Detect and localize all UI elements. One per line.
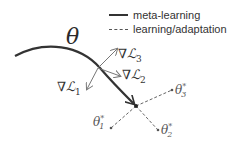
loss-symbol: ℒ <box>131 67 140 82</box>
gradient-label-1: ∇ℒ1 <box>57 79 81 97</box>
optimum-label-1: θ*1 <box>93 114 104 131</box>
theta-label: θ <box>66 24 79 49</box>
gradient-label-2: ∇ℒ2 <box>122 67 146 85</box>
legend-item-adaptation: learning/adaptation <box>109 22 227 36</box>
legend-label: meta-learning <box>133 8 200 22</box>
optimum-label-3: θ*3 <box>175 82 186 99</box>
loss-symbol: ℒ <box>66 79 75 94</box>
adaptation-line-3 <box>136 90 172 106</box>
adaptation-line-2 <box>136 106 158 130</box>
optimum-point-1 <box>110 127 113 130</box>
subscript: 1 <box>99 122 104 131</box>
subscript: 2 <box>140 75 146 85</box>
optimum-label-2: θ*2 <box>161 122 172 139</box>
loss-symbol: ℒ <box>127 46 136 61</box>
optimum-point-3 <box>171 89 174 92</box>
nabla-symbol: ∇ <box>57 79 66 94</box>
subscript: 3 <box>181 90 186 99</box>
solid-line-swatch <box>109 14 128 16</box>
legend: meta-learning learning/adaptation <box>109 8 227 36</box>
optimum-point-2 <box>157 129 160 132</box>
subscript: 1 <box>75 87 81 97</box>
adaptation-line-1 <box>111 106 136 128</box>
gradient-arrow-2 <box>98 68 120 76</box>
subscript: 2 <box>167 130 172 139</box>
dashed-line-swatch <box>109 29 128 30</box>
legend-item-meta-learning: meta-learning <box>109 8 227 22</box>
gradient-label-3: ∇ℒ3 <box>118 46 142 64</box>
gradient-arrow-1 <box>87 68 98 89</box>
subscript: 3 <box>136 54 142 64</box>
nabla-symbol: ∇ <box>122 67 131 82</box>
gradient-arrow-3 <box>98 49 117 68</box>
nabla-symbol: ∇ <box>118 46 127 61</box>
legend-label: learning/adaptation <box>133 22 227 36</box>
meta-parameter-point <box>134 104 138 108</box>
